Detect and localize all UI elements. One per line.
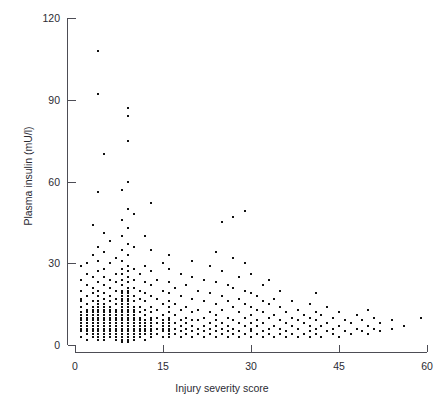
data-point [86,262,88,264]
data-point [109,240,111,242]
y-axis-title: Plasma insulin (mU/l) [22,86,34,266]
data-point [191,276,193,278]
data-point [279,306,281,308]
data-point [168,281,170,283]
data-point [244,290,246,292]
data-point [185,333,187,335]
data-point [150,325,152,327]
data-point [133,213,135,215]
data-point [162,319,164,321]
data-point [256,325,258,327]
data-point [97,306,99,308]
data-point [326,306,328,308]
data-point [103,298,105,300]
data-point [297,319,299,321]
data-point [103,322,105,324]
data-point [121,303,123,305]
data-point [86,295,88,297]
data-point [115,319,117,321]
data-point [215,325,217,327]
data-point [150,306,152,308]
data-point [191,325,193,327]
data-point [162,314,164,316]
data-point [221,295,223,297]
data-point [133,339,135,341]
data-point [115,325,117,327]
data-point [221,270,223,272]
data-point [144,281,146,283]
data-point [162,322,164,324]
data-point [121,309,123,311]
data-point [180,273,182,275]
data-point [197,328,199,330]
data-point [273,314,275,316]
data-point [215,330,217,332]
data-point [250,314,252,316]
data-point [285,330,287,332]
data-point [256,333,258,335]
data-point [109,309,111,311]
data-point [215,303,217,305]
data-point [209,292,211,294]
data-point [127,287,129,289]
data-point [127,341,129,343]
data-point [320,325,322,327]
data-point [97,325,99,327]
data-point [250,330,252,332]
data-point [103,330,105,332]
data-point [115,309,117,311]
data-point [273,298,275,300]
data-point [92,330,94,332]
data-point [150,322,152,324]
data-point [115,290,117,292]
data-point [86,325,88,327]
data-point [326,322,328,324]
data-point [86,284,88,286]
data-point [86,303,88,305]
data-point [97,295,99,297]
data-point [326,330,328,332]
data-point [227,317,229,319]
data-point [133,295,135,297]
data-point [121,189,123,191]
data-point [127,311,129,313]
data-point [250,336,252,338]
data-point [162,262,164,264]
data-point [97,336,99,338]
data-point [92,328,94,330]
data-point [115,328,117,330]
data-point [92,224,94,226]
data-point [203,336,205,338]
data-point [244,210,246,212]
data-point [127,140,129,142]
data-point [144,325,146,327]
data-point [285,322,287,324]
data-point [97,328,99,330]
data-point [127,270,129,272]
data-point [139,330,141,332]
data-point [367,333,369,335]
data-point [139,319,141,321]
data-point [121,339,123,341]
data-point [103,311,105,313]
data-point [174,314,176,316]
data-point [86,314,88,316]
data-point [80,298,82,300]
data-point [121,292,123,294]
data-point [256,309,258,311]
data-point [373,328,375,330]
data-point [127,281,129,283]
data-point [121,325,123,327]
data-point [133,268,135,270]
data-point [121,295,123,297]
data-point [144,330,146,332]
data-point [121,333,123,335]
data-point [109,311,111,313]
data-point [97,317,99,319]
data-point [168,328,170,330]
data-point [92,322,94,324]
data-point [103,339,105,341]
data-point [121,319,123,321]
data-point [121,322,123,324]
data-point [139,298,141,300]
